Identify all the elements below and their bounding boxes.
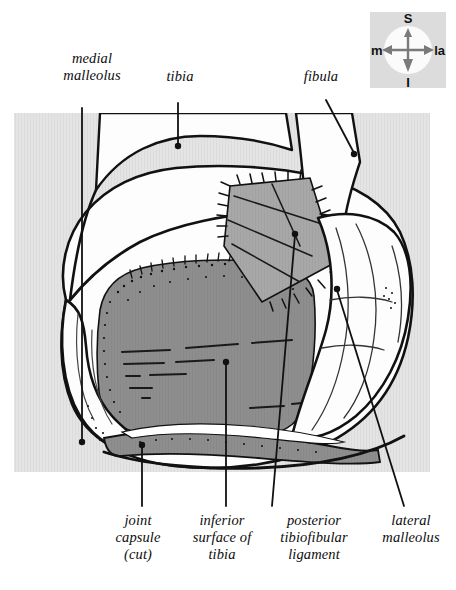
label-tibia: tibia — [142, 68, 218, 85]
dot-medial-malleolus — [79, 439, 85, 445]
anatomical-figure: medial malleolus tibia fibula joint caps… — [0, 0, 456, 590]
compass-label-inferior: I — [406, 75, 410, 90]
compass-label-superior: S — [404, 11, 413, 26]
compass-label-medial: m — [371, 43, 383, 58]
label-medial-malleolus: medial malleolus — [38, 50, 146, 84]
ankle-joint-illustration — [0, 0, 456, 590]
label-fibula: fibula — [282, 68, 360, 85]
label-lateral-malleolus: lateral malleolus — [366, 512, 456, 546]
orientation-compass: S I m la — [370, 12, 446, 88]
label-inferior-surface-of-tibia: inferior surface of tibia — [176, 512, 268, 563]
dot-tibia — [175, 143, 181, 149]
dot-fibula — [351, 151, 357, 157]
dot-inferior-surface — [223, 359, 229, 365]
dot-lateral-malleolus — [334, 286, 340, 292]
compass-label-lateral: la — [434, 43, 445, 58]
label-posterior-tibiofibular-ligament: posterior tibiofibular ligament — [264, 512, 364, 563]
dot-posterior-ligament — [292, 231, 298, 237]
dot-joint-capsule — [139, 442, 145, 448]
label-joint-capsule: joint capsule (cut) — [96, 512, 180, 563]
